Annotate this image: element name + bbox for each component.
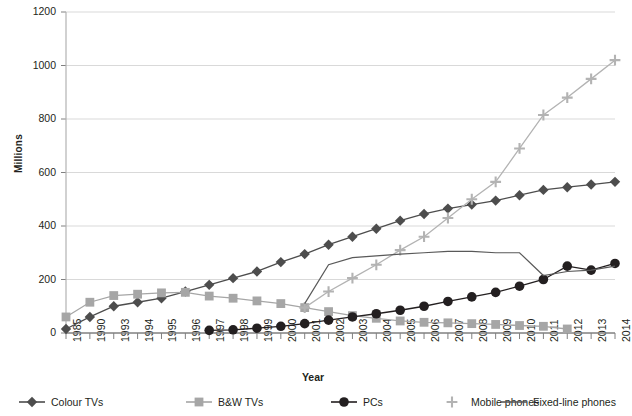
series-colour-tvs <box>61 177 620 335</box>
legend-item[interactable]: B&W TVs <box>185 392 263 412</box>
data-point <box>514 143 525 154</box>
data-point <box>205 292 214 301</box>
data-point <box>395 305 405 315</box>
data-point <box>348 312 358 322</box>
data-point <box>228 273 238 283</box>
data-point <box>253 297 262 306</box>
chart-legend: Colour TVsB&W TVsPCsMobile phonesFixed-l… <box>0 392 626 414</box>
legend-label: PCs <box>363 396 383 408</box>
x-axis-title: Year <box>0 371 626 383</box>
data-point <box>347 273 358 284</box>
data-point <box>371 259 382 270</box>
data-point <box>490 195 500 205</box>
data-point <box>85 298 94 307</box>
data-point <box>563 325 572 334</box>
data-point <box>447 397 458 408</box>
data-point <box>276 322 286 332</box>
data-point <box>85 312 95 322</box>
data-point <box>491 288 501 298</box>
data-point <box>562 261 572 271</box>
data-point <box>514 190 524 200</box>
data-point <box>339 397 349 407</box>
legend-label: Colour TVs <box>51 396 103 408</box>
plus-marker-icon <box>438 395 466 409</box>
data-point <box>252 323 262 333</box>
data-point <box>562 182 572 192</box>
data-point <box>229 294 238 303</box>
series-line <box>66 182 615 329</box>
diamond-marker-icon <box>18 395 46 409</box>
data-point <box>228 325 238 335</box>
data-point <box>252 266 262 276</box>
data-point <box>419 301 429 311</box>
legend-item[interactable]: Fixed-line phones <box>500 392 616 412</box>
data-point <box>109 301 119 311</box>
legend-label: Fixed-line phones <box>533 396 616 408</box>
data-point <box>491 320 500 329</box>
data-point <box>515 321 524 330</box>
data-point <box>324 315 334 325</box>
data-point <box>467 319 476 328</box>
data-point <box>62 313 71 322</box>
data-point <box>371 223 381 233</box>
data-point <box>323 286 334 297</box>
square-marker-icon <box>185 395 213 409</box>
data-point <box>467 292 477 302</box>
legend-label: B&W TVs <box>218 396 263 408</box>
data-point <box>133 290 142 299</box>
data-point <box>204 326 214 336</box>
data-point <box>515 281 525 291</box>
data-point <box>109 291 118 300</box>
data-point <box>420 318 429 327</box>
line-marker-icon <box>500 395 528 409</box>
data-point <box>372 309 382 319</box>
data-point <box>27 397 37 407</box>
data-point <box>300 319 310 329</box>
data-point <box>443 203 453 213</box>
series-mobile-phones <box>299 55 620 313</box>
data-point <box>539 275 549 285</box>
data-point <box>276 257 286 267</box>
data-point <box>299 249 309 259</box>
data-point <box>276 299 285 308</box>
data-point <box>157 288 166 297</box>
data-point <box>444 318 453 327</box>
legend-item[interactable]: Colour TVs <box>18 392 103 412</box>
data-point <box>586 179 596 189</box>
series-pcs <box>204 259 619 335</box>
data-point <box>323 240 333 250</box>
data-point <box>347 232 357 242</box>
data-point <box>395 215 405 225</box>
circle-marker-icon <box>330 395 358 409</box>
data-point <box>324 307 333 316</box>
data-point <box>195 398 204 407</box>
data-point <box>396 317 405 326</box>
data-point <box>490 176 501 187</box>
data-point <box>539 322 548 331</box>
data-point <box>181 288 190 297</box>
data-point <box>443 297 453 307</box>
data-point <box>419 209 429 219</box>
data-point <box>204 280 214 290</box>
data-point <box>538 185 548 195</box>
legend-item[interactable]: PCs <box>330 392 383 412</box>
data-point <box>610 177 620 187</box>
